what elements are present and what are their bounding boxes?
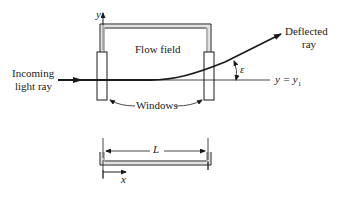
length-label: L	[153, 144, 159, 156]
flow-field-label: Flow field	[135, 44, 181, 56]
light-ray	[58, 34, 281, 80]
reference-line-subscript: 1	[298, 80, 302, 88]
incoming-label-line2: light ray	[15, 81, 52, 93]
windows-label: Windows	[136, 100, 178, 112]
deflection-angle	[234, 61, 237, 80]
deflected-label-line2: ray	[302, 39, 316, 51]
windows-pointer-left	[110, 100, 135, 106]
left-window	[97, 52, 107, 100]
epsilon-label: ε	[240, 64, 244, 76]
incoming-arrowhead	[73, 77, 83, 83]
y-axis-label: y	[96, 9, 101, 21]
reference-line-text: y = y	[275, 73, 298, 85]
incoming-label-line1: Incoming	[12, 68, 54, 80]
x-axis-label: x	[121, 174, 126, 186]
reference-line-label: y = y1	[275, 74, 301, 89]
right-window	[204, 52, 214, 100]
deflected-label-line1: Deflected	[285, 26, 328, 38]
windows-pointer-right	[176, 100, 202, 106]
